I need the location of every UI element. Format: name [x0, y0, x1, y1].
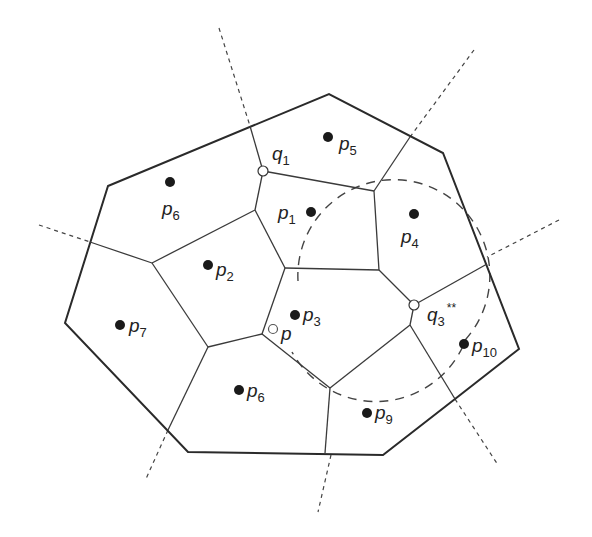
site-p1-dot	[306, 207, 316, 217]
label-q1: q1	[272, 143, 290, 168]
site-p5-dot	[323, 132, 333, 142]
label-p: p	[280, 323, 292, 344]
label-p2: p2	[215, 259, 234, 284]
ray-bottom	[318, 455, 331, 512]
ray-bottom-right	[455, 399, 498, 465]
sites	[115, 132, 469, 418]
site-p6-top-dot	[165, 177, 175, 187]
label-q3: q3**	[427, 301, 456, 329]
query-point-marker	[269, 325, 278, 334]
labels: q1 p5 p6 p1 p4 p2 p3 p q3** p10 p7 p6 p9	[128, 133, 497, 427]
site-p4-dot	[409, 209, 419, 219]
empty-circle	[292, 180, 490, 402]
label-p1: p1	[277, 202, 296, 227]
site-p10-dot	[459, 339, 469, 349]
label-p9: p9	[374, 402, 393, 427]
label-p7: p7	[128, 315, 147, 340]
site-p2-dot	[203, 260, 213, 270]
label-p3: p3	[302, 304, 321, 329]
vertex-q1-marker	[258, 166, 268, 176]
bounding-polygon	[65, 94, 519, 455]
voronoi-edges	[90, 126, 487, 453]
label-p6-bottom: p6	[246, 380, 265, 405]
voronoi-diagram: q1 p5 p6 p1 p4 p2 p3 p q3** p10 p7 p6 p9	[0, 0, 592, 537]
label-p5: p5	[338, 133, 357, 158]
ray-right	[487, 220, 559, 257]
label-p4: p4	[400, 226, 419, 251]
ray-left	[39, 225, 90, 242]
label-p10: p10	[471, 335, 497, 360]
ray-top	[219, 28, 250, 126]
unbounded-rays	[39, 28, 559, 512]
ray-top-right	[410, 50, 474, 137]
site-p7-dot	[115, 320, 125, 330]
ray-bottom-left	[145, 430, 168, 481]
vertex-q3-marker	[409, 300, 419, 310]
label-p6-top: p6	[161, 198, 180, 223]
site-p6-bottom-dot	[234, 385, 244, 395]
site-p3-dot	[290, 310, 300, 320]
site-p9-dot	[362, 408, 372, 418]
